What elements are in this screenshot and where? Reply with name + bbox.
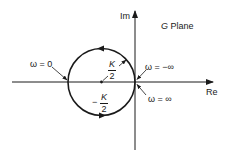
omega-zero-leader — [52, 67, 67, 80]
center-label: K 2 — [100, 93, 108, 114]
center-label-denominator: 2 — [101, 105, 106, 114]
omega-pos-inf-label: ω = ∞ — [148, 95, 172, 104]
real-axis-label: Re — [206, 88, 218, 97]
center-label-sign: − — [92, 98, 97, 107]
radius-label-denominator: 2 — [109, 72, 114, 81]
plane-title: G Plane — [161, 22, 194, 31]
circle-center-dot — [100, 81, 103, 84]
circle-direction-arrow-top — [97, 46, 104, 52]
center-label-numerator: K — [101, 93, 107, 102]
radius-leader-line-outer — [119, 60, 126, 66]
omega-neg-inf-label: ω = −∞ — [145, 63, 174, 72]
omega-pos-inf-leader — [137, 85, 146, 96]
radius-label: K 2 — [108, 60, 116, 81]
imaginary-axis-label: Im — [120, 12, 130, 21]
plane-title-symbol: G — [161, 21, 168, 31]
radius-label-numerator: K — [109, 60, 115, 69]
plane-title-text: Plane — [171, 21, 194, 31]
omega-zero-label: ω = 0 — [30, 60, 52, 69]
